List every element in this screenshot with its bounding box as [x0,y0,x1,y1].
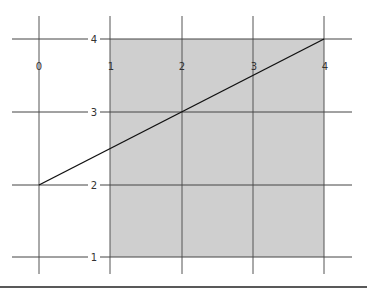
y-tick-2: 2 [91,180,97,191]
y-tick-1: 1 [91,252,97,263]
x-tick-2: 2 [179,61,185,72]
x-tick-3: 3 [251,61,257,72]
x-tick-1: 1 [108,61,114,72]
y-tick-4: 4 [91,34,97,45]
shaded-region [110,39,324,257]
x-tick-4: 4 [322,61,328,72]
y-tick-3: 3 [91,107,97,118]
x-tick-0: 0 [36,61,42,72]
chart: 4 3 2 1 0 1 2 3 4 [0,0,367,292]
